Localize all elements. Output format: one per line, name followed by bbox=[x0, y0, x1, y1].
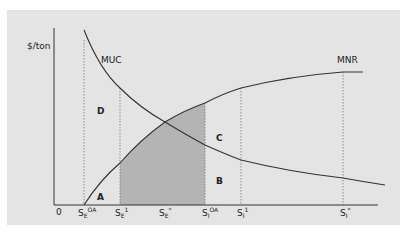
x-tick-se-star: SE* bbox=[159, 206, 172, 219]
svg-text:SE*: SE* bbox=[159, 206, 172, 219]
shaded-area bbox=[120, 103, 205, 205]
region-d-label: D bbox=[97, 106, 104, 116]
mnr-label: MNR bbox=[337, 55, 358, 65]
muc-label: MUC bbox=[101, 55, 122, 65]
region-c-label: C bbox=[216, 133, 223, 143]
x-tick-se-1: SE1 bbox=[115, 206, 129, 219]
origin-label: 0 bbox=[56, 207, 62, 217]
x-tick-si-star: SI* bbox=[340, 206, 351, 219]
svg-text:SI1: SI1 bbox=[237, 206, 249, 219]
chart-svg: $/ton 0 MUC MNR D A C B SEOA SE1 SE* SIO… bbox=[0, 0, 407, 235]
svg-text:SI*: SI* bbox=[340, 206, 351, 219]
x-tick-si-oa: SIOA bbox=[202, 206, 219, 219]
x-tick-se-oa: SEOA bbox=[78, 206, 97, 219]
svg-text:SIOA: SIOA bbox=[202, 206, 219, 219]
svg-text:SE1: SE1 bbox=[115, 206, 129, 219]
x-tick-si-1: SI1 bbox=[237, 206, 249, 219]
svg-text:SEOA: SEOA bbox=[78, 206, 97, 219]
region-b-label: B bbox=[216, 176, 223, 186]
region-a-label: A bbox=[97, 192, 104, 202]
y-axis-label: $/ton bbox=[27, 41, 51, 51]
